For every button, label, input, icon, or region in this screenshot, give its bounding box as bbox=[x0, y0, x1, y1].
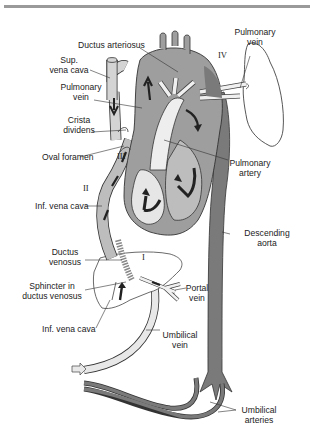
label-sup-vena-cava: Sup. vena cava bbox=[44, 55, 94, 75]
label-ductus-venosus: Ductus venosus bbox=[44, 247, 86, 267]
label-oval-foramen: Oval foramen bbox=[42, 152, 94, 162]
label-ductus-arteriosus: Ductus arteriosus bbox=[78, 40, 145, 50]
label-inf-vena-cava-lower: Inf. vena cava bbox=[42, 324, 96, 334]
inflow-arrow bbox=[72, 363, 86, 375]
label-crista-dividens: Crista dividens bbox=[58, 115, 100, 135]
liver bbox=[93, 252, 182, 309]
label-pulmonary-vein-right: Pulmonary vein bbox=[230, 27, 280, 47]
numeral-ii: II bbox=[83, 183, 89, 193]
label-umbilical-arteries: Umbilical arteries bbox=[236, 405, 282, 425]
numeral-iii: III bbox=[117, 151, 126, 161]
label-sphincter-ductus-venosus: Sphincter in ductus venosus bbox=[18, 281, 86, 301]
numeral-iv: IV bbox=[218, 50, 227, 60]
label-portal-vein: Portal vein bbox=[180, 283, 214, 303]
label-umbilical-vein: Umbilical vein bbox=[158, 330, 202, 350]
label-pulmonary-vein-left: Pulmonary vein bbox=[56, 82, 106, 102]
label-pulmonary-artery: Pulmonary artery bbox=[224, 158, 276, 178]
numeral-i: I bbox=[142, 252, 145, 262]
label-inf-vena-cava-upper: Inf. vena cava bbox=[35, 201, 89, 211]
label-descending-aorta: Descending aorta bbox=[240, 228, 294, 248]
